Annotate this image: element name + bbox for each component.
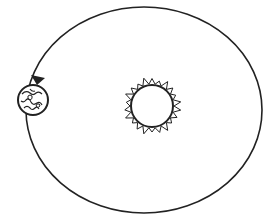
orbit-diagram [0, 0, 271, 221]
sun-icon [125, 78, 181, 134]
direction-arrow-icon [31, 75, 45, 85]
earth-icon [18, 85, 48, 115]
